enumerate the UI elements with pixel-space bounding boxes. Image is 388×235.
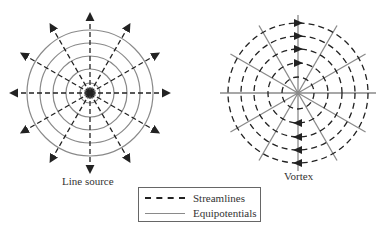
streamline-arrow [50, 24, 90, 93]
vortex-caption: Vortex [284, 170, 313, 182]
legend: Streamlines Equipotentials [138, 187, 261, 222]
legend-label-streamlines: Streamlines [193, 192, 245, 204]
streamline-arrow [90, 93, 130, 162]
legend-label-equipotentials: Equipotentials [193, 207, 257, 219]
streamline-arrow [90, 24, 130, 93]
streamline-arrow [90, 53, 159, 93]
legend-item-equipotentials: Equipotentials [145, 206, 257, 220]
solid-line-swatch-icon [145, 213, 185, 214]
dashed-line-swatch-icon [145, 197, 185, 199]
streamline-arrow [50, 93, 90, 162]
vortex-diagram [220, 15, 376, 171]
legend-item-streamlines: Streamlines [145, 191, 245, 205]
streamline-arrow [21, 53, 90, 93]
line-source-caption: Line source [62, 175, 114, 187]
source-point-icon [88, 91, 93, 96]
streamline-arrow [21, 93, 90, 133]
line-source-diagram [10, 13, 170, 173]
streamline-arrow [90, 93, 159, 133]
vortex-center-icon [296, 91, 300, 95]
